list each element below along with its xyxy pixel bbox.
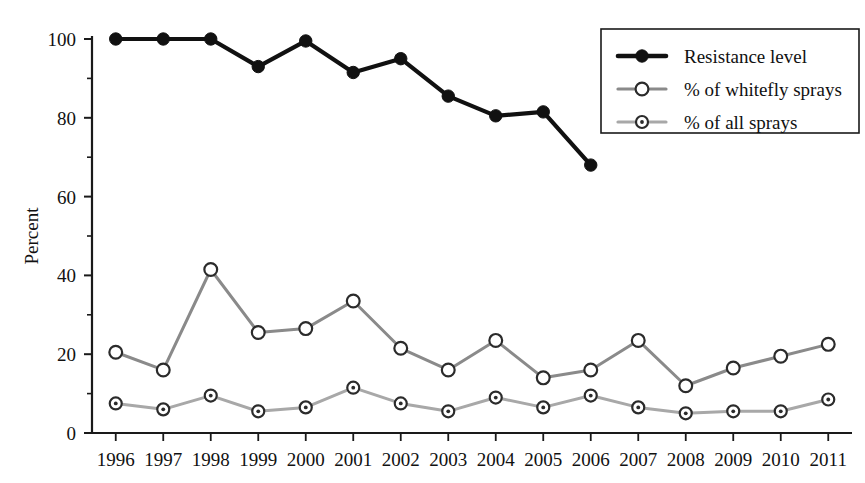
data-point-marker <box>347 295 360 308</box>
data-point-marker <box>157 364 170 377</box>
data-point-marker <box>585 159 597 171</box>
x-tick-label: 2009 <box>714 449 752 470</box>
y-tick-label: 40 <box>57 265 76 286</box>
y-tick-label: 0 <box>67 423 77 444</box>
data-point-marker-dot <box>640 120 644 124</box>
x-tick-label: 2010 <box>762 449 800 470</box>
x-tick-label: 1996 <box>97 449 135 470</box>
x-tick-label: 2004 <box>477 449 516 470</box>
data-point-marker <box>299 322 312 335</box>
data-point-marker <box>109 346 122 359</box>
x-tick-label: 2001 <box>334 449 372 470</box>
x-tick-label: 2007 <box>619 449 657 470</box>
data-point-marker <box>252 60 264 72</box>
legend-label: % of all sprays <box>684 112 797 133</box>
data-point-marker <box>252 326 265 339</box>
data-point-marker <box>679 379 692 392</box>
y-tick-label: 60 <box>57 187 76 208</box>
y-tick-label: 20 <box>57 344 76 365</box>
data-point-marker <box>774 350 787 363</box>
data-point-marker-dot <box>541 405 545 409</box>
data-point-marker-dot <box>779 409 783 413</box>
data-point-marker <box>394 342 407 355</box>
data-point-marker-dot <box>731 409 735 413</box>
x-tick-label: 1997 <box>144 449 182 470</box>
data-point-marker-dot <box>446 409 450 413</box>
data-point-marker-dot <box>209 394 213 398</box>
data-point-marker-dot <box>114 402 118 406</box>
data-point-marker-dot <box>351 386 355 390</box>
legend-label: Resistance level <box>684 46 807 67</box>
data-point-marker <box>537 371 550 384</box>
data-point-marker-dot <box>589 394 593 398</box>
data-point-marker <box>395 53 407 65</box>
x-tick-label: 2006 <box>572 449 610 470</box>
y-tick-label: 80 <box>57 108 76 129</box>
x-tick-label: 1998 <box>192 449 230 470</box>
data-point-marker <box>204 263 217 276</box>
data-point-marker <box>347 66 359 78</box>
data-point-marker-dot <box>494 396 498 400</box>
chart-legend: Resistance level% of whitefly sprays% of… <box>601 29 859 133</box>
data-point-marker <box>489 334 502 347</box>
data-point-marker <box>442 90 454 102</box>
data-point-marker <box>442 364 455 377</box>
x-tick-label: 2000 <box>287 449 325 470</box>
data-point-marker-dot <box>684 411 688 415</box>
line-chart: 020406080100 199619971998199920002001200… <box>0 0 865 483</box>
data-point-marker <box>822 338 835 351</box>
x-tick-label: 2008 <box>667 449 705 470</box>
data-point-marker-dot <box>826 398 830 402</box>
data-point-marker <box>636 83 649 96</box>
y-axis-title: Percent <box>21 207 42 265</box>
data-point-marker-dot <box>304 405 308 409</box>
legend-label: % of whitefly sprays <box>684 79 842 100</box>
data-point-marker <box>300 35 312 47</box>
x-tick-label: 2002 <box>382 449 420 470</box>
data-point-marker-dot <box>399 402 403 406</box>
data-point-marker-dot <box>256 409 260 413</box>
data-point-marker <box>205 33 217 45</box>
x-tick-label: 2005 <box>524 449 562 470</box>
data-point-marker <box>490 110 502 122</box>
data-point-marker-dot <box>161 407 165 411</box>
x-tick-label: 2011 <box>810 449 847 470</box>
data-point-marker <box>636 50 648 62</box>
data-point-marker <box>727 362 740 375</box>
data-point-marker <box>110 33 122 45</box>
x-tick-label: 2003 <box>429 449 467 470</box>
data-point-marker <box>537 106 549 118</box>
data-point-marker-dot <box>636 405 640 409</box>
data-point-marker <box>584 364 597 377</box>
data-point-marker <box>632 334 645 347</box>
x-tick-label: 1999 <box>239 449 277 470</box>
y-tick-label: 100 <box>48 29 77 50</box>
data-point-marker <box>157 33 169 45</box>
chart-figure: 020406080100 199619971998199920002001200… <box>0 0 865 483</box>
